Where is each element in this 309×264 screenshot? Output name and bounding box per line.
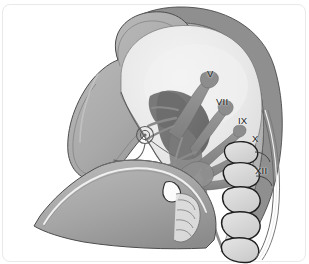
figure-root: V VII IX X XII: [0, 0, 309, 264]
vertebra-c1: [224, 142, 257, 165]
vertebra-c2: [223, 163, 259, 188]
label-nerve-x: X: [252, 134, 259, 144]
label-nerve-ix: IX: [238, 116, 247, 126]
anatomical-illustration: [0, 0, 309, 264]
vertebra-c5: [221, 238, 258, 263]
label-nerve-v: V: [207, 69, 214, 79]
label-nerve-xii: XII: [255, 166, 267, 176]
vertebra-c3: [223, 187, 261, 214]
label-nerve-vii: VII: [216, 97, 228, 107]
